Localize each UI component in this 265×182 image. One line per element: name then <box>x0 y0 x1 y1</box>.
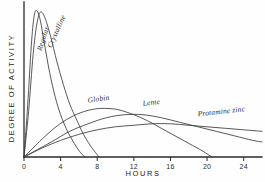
x-tick-label: 4 <box>59 163 63 170</box>
x-axis-title: HOURS <box>125 169 160 178</box>
curve-label-protamine-zinc: Protamine zinc <box>196 104 246 118</box>
curve-annotations: RegularCrystallineGlobinLenteProtamine z… <box>34 13 245 118</box>
y-axis-title: DEGREE OF ACTIVITY <box>7 34 16 142</box>
x-tick-label: 0 <box>22 163 26 170</box>
curve-label-globin: Globin <box>87 93 110 105</box>
x-tick-label: 20 <box>203 163 211 170</box>
plot-area: 04812162024 RegularCrystallineGlobinLent… <box>0 0 265 182</box>
curve-protamine-zinc <box>24 124 262 157</box>
insulin-activity-chart: 04812162024 RegularCrystallineGlobinLent… <box>0 0 265 182</box>
curve-lente <box>24 114 262 157</box>
x-tick-label: 8 <box>95 163 99 170</box>
x-tick-label: 24 <box>239 163 247 170</box>
curve-label-lente: Lente <box>141 97 161 108</box>
x-tick-label: 16 <box>166 163 174 170</box>
curve-crystalline <box>24 12 99 157</box>
